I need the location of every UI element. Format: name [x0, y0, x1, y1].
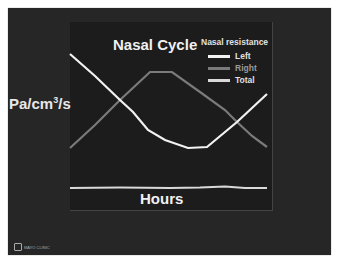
legend: Nasal resistance Left Right Total — [201, 37, 271, 86]
chart-title: Nasal Cycle — [113, 36, 197, 53]
series-total-line — [70, 187, 267, 189]
legend-swatch-right — [208, 67, 230, 70]
legend-label-right: Right — [235, 63, 257, 73]
shield-logo-icon — [14, 243, 22, 251]
mayo-clinic-logo: MAYO CLINIC — [14, 243, 50, 251]
logo-text: MAYO CLINIC — [24, 245, 50, 250]
legend-item-total: Total — [201, 74, 271, 86]
x-axis-label: Hours — [140, 190, 183, 207]
legend-title: Nasal resistance — [201, 37, 271, 47]
legend-swatch-total — [208, 79, 230, 82]
y-axis-label: Pa/cm3/s — [9, 95, 71, 112]
legend-item-left: Left — [201, 50, 271, 62]
legend-label-total: Total — [235, 75, 255, 85]
legend-swatch-left — [208, 55, 230, 58]
legend-label-left: Left — [235, 51, 251, 61]
legend-item-right: Right — [201, 62, 271, 74]
